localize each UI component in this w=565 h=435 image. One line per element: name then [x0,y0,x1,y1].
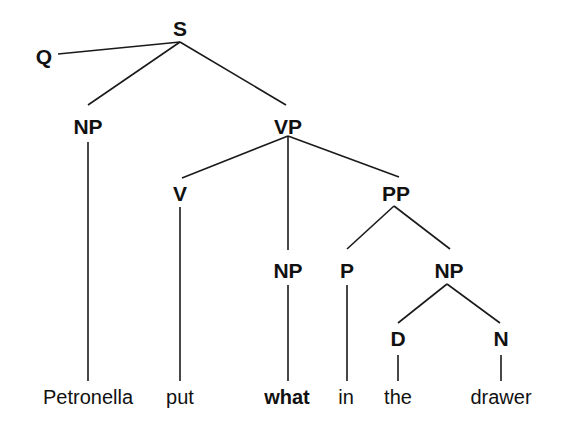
word-petronella: Petronella [43,387,133,407]
node-v: V [173,183,187,204]
node-n: N [493,328,508,349]
node-q: Q [36,46,52,67]
word-the: the [384,387,412,407]
node-p: P [340,260,354,281]
edge-np-n [447,284,500,323]
edge-pp-np [394,206,450,249]
node-np-pp: NP [434,260,463,281]
edge-s-np [88,42,180,105]
edge-s-q [58,42,180,54]
node-np-subject: NP [73,116,102,137]
edge-np-d [398,284,447,323]
word-what: what [264,387,310,407]
node-pp: PP [382,183,410,204]
tree-edges [0,0,565,435]
node-vp: VP [274,116,302,137]
edge-pp-p [347,206,394,249]
edge-vp-v [182,136,288,178]
node-s: S [173,18,187,39]
word-drawer: drawer [470,387,531,407]
edge-s-vp [180,42,286,105]
word-in: in [338,387,354,407]
edge-vp-pp [288,136,399,177]
node-np-object: NP [273,260,302,281]
node-d: D [390,328,405,349]
word-put: put [166,387,194,407]
